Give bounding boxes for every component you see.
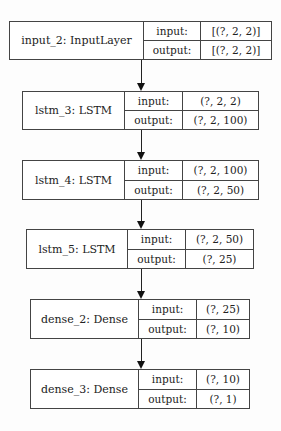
input-label: input: (139, 300, 196, 320)
output-shape: [(?, 2, 2)] (201, 41, 271, 59)
io-shapes: (?, 2, 2) (?, 2, 100) (183, 92, 258, 129)
input-label: input: (128, 230, 185, 250)
input-shape: (?, 2, 2) (183, 92, 258, 111)
edge-arrow (141, 339, 142, 362)
arrowhead-icon (137, 361, 145, 369)
edge-arrow (141, 60, 142, 84)
output-shape: (?, 2, 50) (183, 181, 258, 200)
output-shape: (?, 10) (197, 320, 249, 339)
output-label: output: (125, 181, 182, 200)
edge-arrow (141, 130, 142, 153)
io-labels: input: output: (144, 22, 201, 59)
arrowhead-icon (137, 291, 145, 299)
layer-node-input_2: input_2: InputLayer input: output: [(?, … (9, 21, 272, 60)
arrowhead-icon (137, 152, 145, 160)
io-labels: input: output: (125, 161, 183, 199)
output-label: output: (139, 390, 196, 409)
input-shape: (?, 25) (197, 300, 249, 320)
layer-node-lstm_5: lstm_5: LSTM input: output: (?, 2, 50) (… (26, 229, 254, 269)
output-label: output: (125, 111, 182, 129)
output-shape: (?, 1) (197, 390, 249, 409)
io-shapes: (?, 25) (?, 10) (197, 300, 249, 338)
layer-node-dense_2: dense_2: Dense input: output: (?, 25) (?… (30, 299, 250, 339)
io-labels: input: output: (139, 370, 197, 408)
arrowhead-icon (137, 83, 145, 91)
input-label: input: (125, 92, 182, 111)
layer-name: dense_3: Dense (31, 370, 139, 408)
input-shape: (?, 2, 100) (183, 161, 258, 181)
layer-node-lstm_3: lstm_3: LSTM input: output: (?, 2, 2) (?… (22, 91, 259, 130)
edge-arrow (141, 269, 142, 292)
layer-name: lstm_5: LSTM (27, 230, 128, 268)
input-shape: [(?, 2, 2)] (201, 22, 271, 41)
layer-name: dense_2: Dense (31, 300, 139, 338)
io-labels: input: output: (125, 92, 183, 129)
layer-node-dense_3: dense_3: Dense input: output: (?, 10) (?… (30, 369, 250, 409)
io-shapes: (?, 2, 100) (?, 2, 50) (183, 161, 258, 199)
edge-arrow (141, 200, 142, 222)
io-labels: input: output: (139, 300, 197, 338)
output-shape: (?, 25) (186, 250, 253, 269)
layer-name: lstm_3: LSTM (23, 92, 125, 129)
output-label: output: (128, 250, 185, 269)
output-shape: (?, 2, 100) (183, 111, 258, 129)
output-label: output: (139, 320, 196, 339)
io-labels: input: output: (128, 230, 186, 268)
input-shape: (?, 10) (197, 370, 249, 390)
input-label: input: (125, 161, 182, 181)
layer-node-lstm_4: lstm_4: LSTM input: output: (?, 2, 100) … (22, 160, 259, 200)
output-label: output: (144, 41, 200, 59)
layer-name: input_2: InputLayer (10, 22, 144, 59)
io-shapes: (?, 2, 50) (?, 25) (186, 230, 253, 268)
arrowhead-icon (137, 221, 145, 229)
input-label: input: (139, 370, 196, 390)
input-label: input: (144, 22, 200, 41)
io-shapes: (?, 10) (?, 1) (197, 370, 249, 408)
io-shapes: [(?, 2, 2)] [(?, 2, 2)] (201, 22, 271, 59)
input-shape: (?, 2, 50) (186, 230, 253, 250)
layer-name: lstm_4: LSTM (23, 161, 125, 199)
